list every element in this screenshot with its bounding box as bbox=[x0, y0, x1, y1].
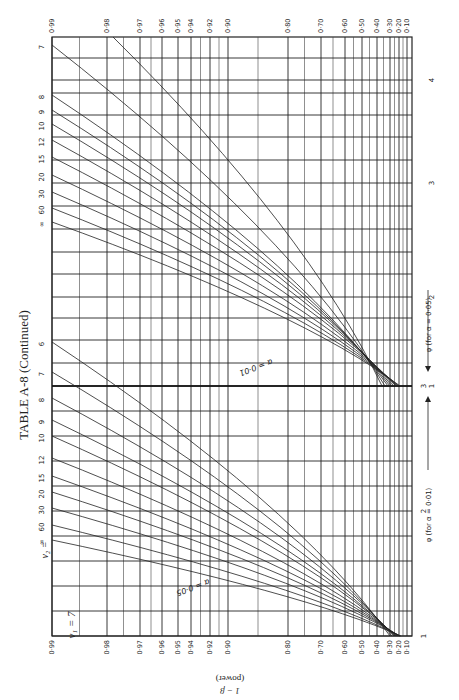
power-tick-top: 0·70 bbox=[317, 19, 325, 33]
power-tick-top: 0·92 bbox=[206, 19, 214, 33]
power-tick-top: 0·97 bbox=[136, 19, 144, 33]
power-tick-bottom: 0·40 bbox=[373, 640, 381, 654]
curve-label-alpha-001: 10 bbox=[38, 122, 46, 131]
power-tick-top: 0·50 bbox=[358, 19, 366, 33]
curve-label-alpha-001: ∞ bbox=[38, 221, 46, 227]
phi-axis-label-alpha-001: φ (for α = 0·01) bbox=[425, 487, 433, 542]
curve-alpha-005 bbox=[52, 508, 400, 636]
curve-alpha-005 bbox=[52, 420, 395, 636]
nu1-label: ν₁ = 7 bbox=[65, 611, 77, 639]
power-tick-top: 0·40 bbox=[373, 19, 381, 33]
power-axis-label-line2: (power) bbox=[216, 674, 245, 684]
curve-label-alpha-001: 30 bbox=[38, 190, 46, 199]
power-tick-top: 0·96 bbox=[158, 19, 166, 33]
curve-label-alpha-001: 15 bbox=[38, 155, 46, 164]
power-tick-bottom: 0·99 bbox=[48, 640, 56, 654]
power-tick-bottom: 0·80 bbox=[284, 640, 292, 654]
power-tick-top: 0·80 bbox=[284, 19, 292, 33]
curve-label-alpha-005: 30 bbox=[38, 506, 46, 515]
curve-label-alpha-005: 60 bbox=[38, 523, 46, 532]
phi-axis-label-alpha-005: φ (for α = 0·05) bbox=[425, 297, 433, 352]
curve-label-alpha-005: 7 bbox=[38, 372, 46, 376]
power-tick-bottom: 0·20 bbox=[395, 640, 403, 654]
phi-tick-alpha-005: 4 bbox=[428, 77, 436, 82]
power-tick-top: 0·90 bbox=[224, 19, 232, 33]
arrow-up-head bbox=[425, 396, 431, 402]
alpha-001-label: α = 0·01 bbox=[238, 357, 274, 377]
chart-title: TABLE A-8 (Continued) bbox=[16, 310, 31, 440]
curve-label-alpha-005: 6 bbox=[38, 341, 46, 346]
power-tick-top: 0·99 bbox=[48, 19, 56, 33]
curve-label-alpha-001: 8 bbox=[38, 95, 46, 99]
curve-alpha-001 bbox=[52, 222, 400, 386]
power-tick-bottom: 0·30 bbox=[386, 640, 394, 654]
power-tick-top: 0·94 bbox=[187, 19, 195, 33]
curve-label-alpha-005: 9 bbox=[38, 420, 46, 424]
curve-label-alpha-001: 9 bbox=[38, 110, 46, 114]
curve-label-alpha-005: 10 bbox=[38, 434, 46, 443]
power-tick-bottom: 0·95 bbox=[174, 640, 182, 654]
power-axis-label-line1: 1 − β bbox=[220, 686, 240, 696]
curve-label-alpha-001: 7 bbox=[38, 45, 46, 49]
nu2-label: ν₂ = bbox=[39, 541, 50, 558]
power-tick-bottom: 0·96 bbox=[158, 640, 166, 654]
curve-label-alpha-005: 8 bbox=[38, 398, 46, 402]
power-tick-top: 0·60 bbox=[341, 19, 349, 33]
power-tick-bottom: 0·50 bbox=[358, 640, 366, 654]
curve-alpha-005 bbox=[52, 492, 399, 636]
curve-alpha-001 bbox=[52, 157, 396, 386]
power-tick-bottom: 0·10 bbox=[403, 640, 411, 654]
curve-label-alpha-001: 12 bbox=[38, 138, 46, 147]
curve-label-alpha-001: 20 bbox=[38, 173, 46, 182]
curve-label-alpha-005: 12 bbox=[38, 456, 46, 465]
power-tick-top: 0·95 bbox=[174, 19, 182, 33]
phi-tick-alpha-005: 3 bbox=[428, 181, 436, 185]
curve-label-alpha-005: 20 bbox=[38, 490, 46, 499]
curve-alpha-005 bbox=[52, 525, 400, 636]
curve-label-alpha-005: 15 bbox=[38, 474, 46, 483]
power-tick-bottom: 0·70 bbox=[317, 640, 325, 654]
curve-alpha-001 bbox=[52, 124, 392, 386]
curve-label-alpha-001: 60 bbox=[38, 206, 46, 215]
arrow-down-head bbox=[425, 366, 431, 372]
power-tick-bottom: 0·97 bbox=[136, 640, 144, 654]
phi-tick-alpha-005: 1 bbox=[428, 384, 436, 388]
power-tick-top: 0·30 bbox=[386, 19, 394, 33]
power-tick-bottom: 0·92 bbox=[206, 640, 214, 654]
phi-tick-alpha-001: 1 bbox=[420, 634, 428, 638]
power-tick-top: 0·10 bbox=[403, 19, 411, 33]
power-tick-top: 0·98 bbox=[103, 19, 111, 33]
chart-labels: 0·990·990·980·980·970·970·960·960·950·95… bbox=[38, 19, 436, 655]
alpha-005-label: α = 0·05 bbox=[175, 577, 211, 597]
power-tick-bottom: 0·98 bbox=[103, 640, 111, 654]
power-chart: 0·990·990·980·980·970·970·960·960·950·95… bbox=[0, 0, 459, 700]
power-tick-bottom: 0·94 bbox=[187, 640, 195, 654]
power-curves bbox=[52, 37, 401, 636]
power-tick-bottom: 0·90 bbox=[224, 640, 232, 654]
power-tick-top: 0·20 bbox=[395, 19, 403, 33]
phi-tick-alpha-001: 3 bbox=[420, 384, 428, 388]
power-tick-bottom: 0·60 bbox=[341, 640, 349, 654]
